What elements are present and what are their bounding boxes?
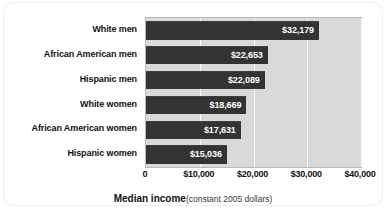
bar-value-label: $17,631 [204, 121, 236, 139]
bar-row: $22,089 [146, 68, 361, 93]
x-axis-title-sub: (constant 2005 dollars) [186, 194, 272, 204]
x-tick-label: 0 [143, 169, 148, 179]
bar-value-label: $15,036 [190, 145, 222, 163]
x-tick-label: $40,000 [344, 169, 375, 179]
bar-value-label: $32,179 [282, 21, 314, 39]
bar[interactable]: $15,036 [146, 145, 227, 163]
chart-figure: White menAfrican American menHispanic me… [4, 3, 382, 205]
x-tick-label: $10,000 [183, 169, 214, 179]
bar[interactable]: $22,089 [146, 71, 265, 89]
x-tick-label: $20,000 [237, 169, 268, 179]
category-label: White women [80, 92, 137, 117]
bar[interactable]: $32,179 [146, 21, 319, 39]
bar-row: $32,179 [146, 18, 361, 43]
bar-value-label: $22,653 [231, 46, 263, 64]
category-label: Hispanic men [80, 67, 137, 92]
plot-area: $32,179$22,653$22,089$18,669$17,631$15,0… [145, 17, 362, 168]
gridline [361, 18, 362, 167]
bar-row: $18,669 [146, 93, 361, 118]
category-label: African American women [32, 116, 138, 141]
category-label: Hispanic women [67, 141, 137, 166]
category-label: African American men [44, 42, 137, 67]
x-axis-title: Median income(constant 2005 dollars) [4, 188, 382, 205]
x-axis: 0$10,000$20,000$30,000$40,000 [145, 169, 361, 182]
bar-row: $22,653 [146, 43, 361, 68]
category-axis: White menAfrican American menHispanic me… [4, 17, 141, 166]
bar-row: $15,036 [146, 142, 361, 167]
bar[interactable]: $18,669 [146, 96, 246, 114]
x-tick-label: $30,000 [291, 169, 322, 179]
bar[interactable]: $22,653 [146, 46, 268, 64]
bar-value-label: $22,089 [228, 71, 260, 89]
bar-value-label: $18,669 [210, 96, 242, 114]
bar-row: $17,631 [146, 117, 361, 142]
bar[interactable]: $17,631 [146, 121, 241, 139]
category-label: White men [92, 17, 137, 42]
x-axis-title-main: Median income [114, 193, 186, 204]
